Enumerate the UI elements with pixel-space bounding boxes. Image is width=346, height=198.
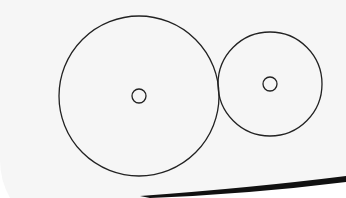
tangent-circles-diagram	[0, 0, 346, 198]
diagram-canvas	[0, 0, 346, 198]
